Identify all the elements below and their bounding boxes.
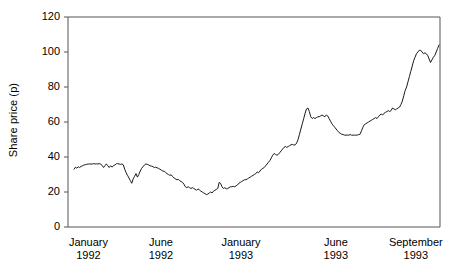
x-tick-year: 1993	[356, 249, 467, 262]
y-tick-label: 120	[30, 11, 60, 22]
y-tick-label: 80	[30, 81, 60, 92]
share-price-line	[74, 45, 439, 195]
y-tick-label: 40	[30, 151, 60, 162]
axis-lines	[68, 17, 440, 227]
y-axis-label: Share price (p)	[7, 83, 19, 157]
x-tick-month: September	[356, 236, 467, 249]
y-axis-label-container: Share price (p)	[0, 0, 26, 240]
y-axis-tick-marks	[64, 17, 68, 227]
y-tick-label: 60	[30, 116, 60, 127]
x-tick-label: September1993	[356, 236, 467, 262]
y-tick-label: 20	[30, 186, 60, 197]
plot-area	[0, 0, 467, 273]
y-tick-label: 100	[30, 46, 60, 57]
share-price-chart-figure: Share price (p) 020406080100120 January1…	[0, 0, 467, 273]
axis-frame	[68, 17, 440, 227]
y-tick-label: 0	[30, 221, 60, 232]
